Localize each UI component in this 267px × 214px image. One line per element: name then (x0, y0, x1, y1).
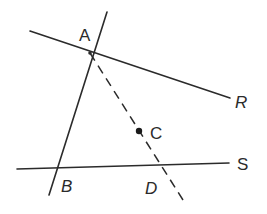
dashed-line-ad (90, 53, 183, 200)
line-bs (17, 163, 229, 169)
label-s: S (237, 155, 248, 174)
label-d: D (145, 179, 157, 198)
point-c-dot (136, 128, 142, 134)
point-a-dot (88, 51, 92, 55)
geometry-diagram: A B C D R S (0, 0, 267, 214)
line-ar (30, 31, 230, 98)
label-c: C (150, 124, 162, 143)
label-r: R (235, 93, 247, 112)
label-b: B (61, 177, 72, 196)
label-a: A (79, 26, 91, 45)
